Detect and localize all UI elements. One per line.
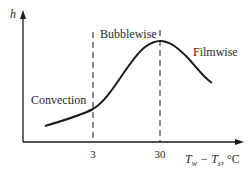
region-label-convection: Convection [31,93,86,107]
y-axis-arrow-icon [20,10,26,19]
region-label-filmwise: Filmwise [193,45,238,59]
x-tick-label-30: 30 [155,148,167,160]
y-axis-label: h [10,7,16,21]
region-label-bubblewise: Bubblewise [100,27,157,41]
x-axis-label: Tw− Ts, °C [185,152,240,168]
boiling-curve [45,41,212,126]
x-tick-label-3: 3 [90,148,96,160]
boiling-curve-chart: h Bubblewise Filmwise Convection 3 30 Tw… [0,0,250,176]
x-axis-arrow-icon [235,139,244,145]
